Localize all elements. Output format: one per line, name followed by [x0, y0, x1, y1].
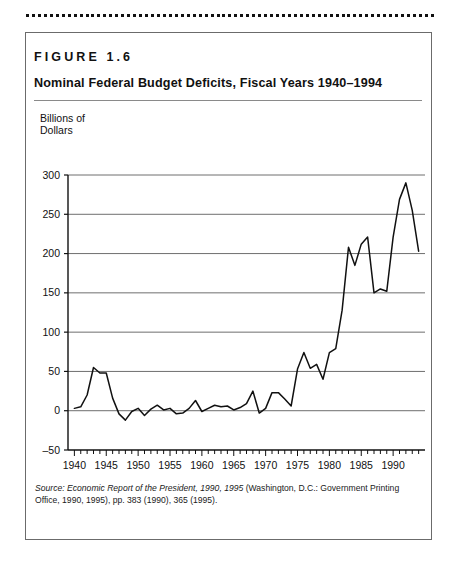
y-tick-label: 250: [26, 208, 60, 220]
x-tick-label: 1970: [249, 459, 283, 471]
y-tick-label: 0: [26, 404, 60, 416]
x-tick-label: 1955: [153, 459, 187, 471]
x-tick-label: 1990: [376, 459, 410, 471]
y-tick-label: 100: [26, 326, 60, 338]
source-publication: Economic Report of the President, 1990, …: [67, 483, 243, 493]
x-tick-label: 1950: [121, 459, 155, 471]
source-note: Source: Economic Report of the President…: [35, 482, 421, 507]
y-tick-label: 150: [26, 286, 60, 298]
y-tick-label: 50: [26, 365, 60, 377]
figure-page: FIGURE 1.6 Nominal Federal Budget Defici…: [0, 0, 457, 568]
x-tick-label: 1975: [281, 459, 315, 471]
x-tick-label: 1940: [57, 459, 91, 471]
deficit-series-line: [74, 183, 418, 420]
x-tick-label: 1985: [344, 459, 378, 471]
y-tick-label: –50: [26, 444, 60, 456]
x-tick-label: 1965: [217, 459, 251, 471]
x-tick-label: 1945: [89, 459, 123, 471]
x-tick-label: 1980: [312, 459, 346, 471]
y-tick-label: 300: [26, 169, 60, 181]
source-prefix: Source:: [35, 483, 67, 493]
y-tick-label: 200: [26, 247, 60, 259]
source-detail-2: 1990, 1995), pp. 383 (1990), 365 (1995).: [62, 495, 217, 505]
x-tick-label: 1960: [185, 459, 219, 471]
